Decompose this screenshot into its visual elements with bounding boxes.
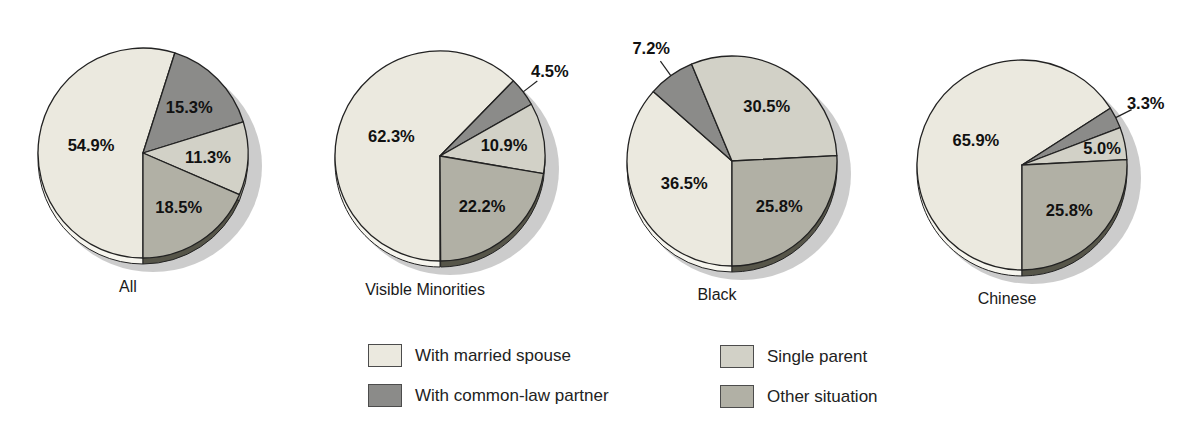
slice-percentage-label: 25.8% [1046, 201, 1093, 219]
legend-label-other-situation: Other situation [767, 385, 878, 408]
legend-item-common-law-partner: With common-law partner [368, 384, 609, 407]
pie-chart-visible-minorities: 62.3%4.5%10.9%22.2%Visible Minorities [290, 6, 590, 306]
pie-caption-all: All [119, 278, 137, 296]
slice-percentage-label: 25.8% [756, 197, 803, 215]
pie-svg-visible-minorities: 62.3%4.5%10.9%22.2% [290, 6, 590, 306]
family-structure-pie-figure: 54.9%15.3%11.3%18.5%All62.3%4.5%10.9%22.… [0, 0, 1194, 443]
slice-percentage-label: 65.9% [953, 131, 1000, 149]
slice-percentage-label: 36.5% [661, 174, 708, 192]
pie-caption-black: Black [697, 286, 736, 304]
legend-column-right: Single parent Other situation [720, 345, 878, 408]
pie-chart-chinese: 65.9%3.3%5.0%25.8%Chinese [872, 15, 1172, 315]
slice-percentage-label: 15.3% [166, 98, 213, 116]
leader-line [523, 81, 537, 92]
pie-chart-all: 54.9%15.3%11.3%18.5%All [0, 3, 293, 303]
legend-swatch-other-situation [720, 385, 754, 408]
pie-svg-all: 54.9%15.3%11.3%18.5% [0, 3, 293, 303]
legend-label-single-parent: Single parent [767, 345, 867, 368]
slice-percentage-label: 4.5% [531, 62, 569, 80]
leader-line [660, 61, 670, 75]
legend-label-married-spouse: With married spouse [415, 344, 571, 367]
legend-item-other-situation: Other situation [720, 385, 878, 408]
slice-percentage-label: 62.3% [368, 127, 415, 145]
pie-svg-black: 36.5%7.2%30.5%25.8% [582, 11, 882, 311]
legend-column-left: With married spouse With common-law part… [368, 344, 609, 407]
legend-item-married-spouse: With married spouse [368, 344, 609, 367]
legend-swatch-common-law-partner [368, 384, 402, 407]
slice-percentage-label: 54.9% [68, 136, 115, 154]
legend-swatch-single-parent [720, 345, 754, 368]
slice-percentage-label: 3.3% [1127, 94, 1165, 112]
pie-caption-visible-minorities: Visible Minorities [365, 281, 485, 299]
pie-svg-chinese: 65.9%3.3%5.0%25.8% [872, 15, 1172, 315]
slice-percentage-label: 5.0% [1083, 139, 1121, 157]
slice-percentage-label: 11.3% [185, 148, 231, 166]
slice-percentage-label: 18.5% [155, 198, 202, 216]
legend-item-single-parent: Single parent [720, 345, 878, 368]
pie-caption-chinese: Chinese [978, 290, 1037, 308]
slice-percentage-label: 10.9% [481, 136, 528, 154]
slice-percentage-label: 7.2% [632, 39, 670, 57]
pie-chart-black: 36.5%7.2%30.5%25.8%Black [582, 11, 882, 311]
legend-swatch-married-spouse [368, 344, 402, 367]
slice-percentage-label: 22.2% [459, 197, 506, 215]
legend-label-common-law-partner: With common-law partner [415, 384, 609, 407]
slice-percentage-label: 30.5% [743, 97, 790, 115]
